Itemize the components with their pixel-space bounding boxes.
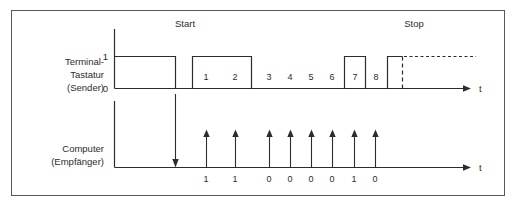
receiver-sample-arrow-3 <box>266 130 272 168</box>
receiver-sample-arrow-4 <box>287 130 293 168</box>
receiver-sample-arrow-7 <box>351 130 357 168</box>
receiver-bit-value-4: 0 <box>287 174 292 184</box>
stop-marker-label: Stop <box>404 18 424 29</box>
receiver-label-line-2: (Empfänger) <box>51 156 104 167</box>
sender-bit-label-4: 4 <box>287 72 292 82</box>
receiver-bit-value-6: 0 <box>329 174 334 184</box>
sender-bit-label-1: 1 <box>203 72 208 82</box>
receiver-bit-value-2: 1 <box>232 174 237 184</box>
receiver-bit-value-3: 0 <box>266 174 271 184</box>
sender-bit-label-5: 5 <box>308 72 313 82</box>
sender-t-axis-arrowhead <box>463 85 471 91</box>
sender-bit-label-8: 8 <box>373 72 378 82</box>
start-marker-label: Start <box>175 18 195 29</box>
receiver-sample-arrow-1 <box>203 130 209 168</box>
sender-bit-label-2: 2 <box>232 72 237 82</box>
sender-label-line-3: (Sender) <box>67 82 104 93</box>
sender-t-axis-label: t <box>479 83 482 94</box>
receiver-t-axis-label: t <box>479 162 482 173</box>
receiver-t-axis-arrowhead <box>463 164 471 170</box>
receiver-bit-value-8: 0 <box>372 174 377 184</box>
receiver-sample-arrow-2 <box>232 130 238 168</box>
sender-bit-label-6: 6 <box>329 72 334 82</box>
receiver-bit-value-5: 0 <box>308 174 313 184</box>
sender-label-line-1: Terminal- <box>65 56 104 67</box>
sender-label-line-2: Tastatur <box>70 69 104 80</box>
sender-level-low-label: 0 <box>103 83 108 94</box>
timing-diagram-figure: Start Stop Terminal- Tastatur (Sender) 1… <box>0 0 519 211</box>
sender-bit-label-7: 7 <box>352 72 357 82</box>
receiver-bit-value-7: 1 <box>351 174 356 184</box>
sender-bit-label-3: 3 <box>266 72 271 82</box>
sender-waveform <box>115 57 403 89</box>
receiver-sample-arrow-6 <box>329 130 335 168</box>
start-detect-arrow-head <box>172 159 178 168</box>
timing-diagram-svg: Start Stop Terminal- Tastatur (Sender) 1… <box>0 0 519 211</box>
receiver-bit-value-1: 1 <box>203 174 208 184</box>
receiver-label-line-1: Computer <box>62 143 104 154</box>
receiver-sample-arrow-5 <box>308 130 314 168</box>
receiver-sample-arrow-8 <box>372 130 378 168</box>
sender-level-high-label: 1 <box>103 51 108 62</box>
